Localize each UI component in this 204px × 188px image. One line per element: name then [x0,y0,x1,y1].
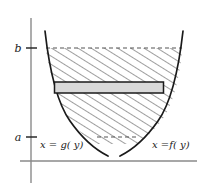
axis-tick-label-a: a [15,131,22,144]
right-curve-label: x =f( y) [152,139,190,150]
representative-rectangle [55,82,164,93]
figure-container: b a x = g( y) x =f( y) [0,0,204,188]
figure-canvas: b a x = g( y) x =f( y) [0,0,204,188]
axis-tick-label-b: b [14,42,21,55]
left-curve-label: x = g( y) [40,139,84,150]
